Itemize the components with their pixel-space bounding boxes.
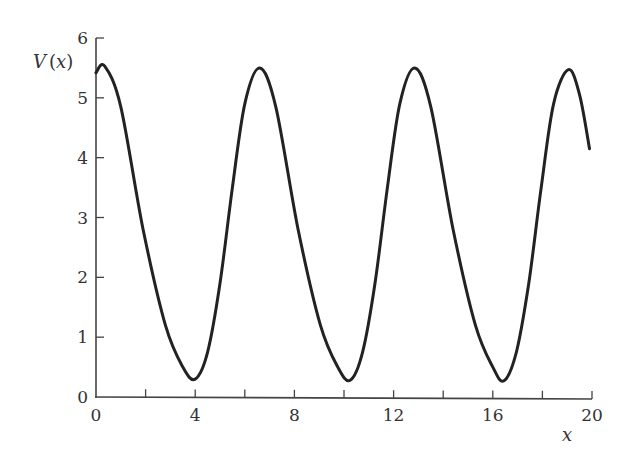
y-tick-label: 0 — [77, 387, 88, 407]
y-tick-label: 1 — [77, 327, 88, 347]
v-of-x-curve — [96, 64, 590, 381]
y-tick-label: 5 — [77, 88, 88, 108]
tick-labels: 0123456048121620 — [77, 28, 603, 425]
x-tick-label: 20 — [581, 405, 603, 425]
chart: 0123456048121620 V(x) x — [0, 0, 633, 460]
y-axis-label-close: ) — [66, 51, 73, 72]
y-axis-label-v: V — [33, 51, 48, 72]
y-axis-label-open: ( — [49, 51, 56, 72]
x-tick-label: 8 — [289, 405, 300, 425]
y-tick-label: 4 — [77, 148, 88, 168]
y-tick-label: 2 — [77, 267, 88, 287]
y-tick-label: 6 — [77, 28, 88, 48]
y-axis-label-var: x — [56, 51, 66, 72]
x-tick-label: 16 — [482, 405, 504, 425]
y-axis-label: V(x) — [33, 51, 73, 72]
y-tick-label: 3 — [77, 208, 88, 228]
x-tick-label: 4 — [190, 405, 201, 425]
x-tick-label: 12 — [383, 405, 405, 425]
x-axis-label: x — [562, 424, 572, 445]
x-tick-label: 0 — [91, 405, 102, 425]
